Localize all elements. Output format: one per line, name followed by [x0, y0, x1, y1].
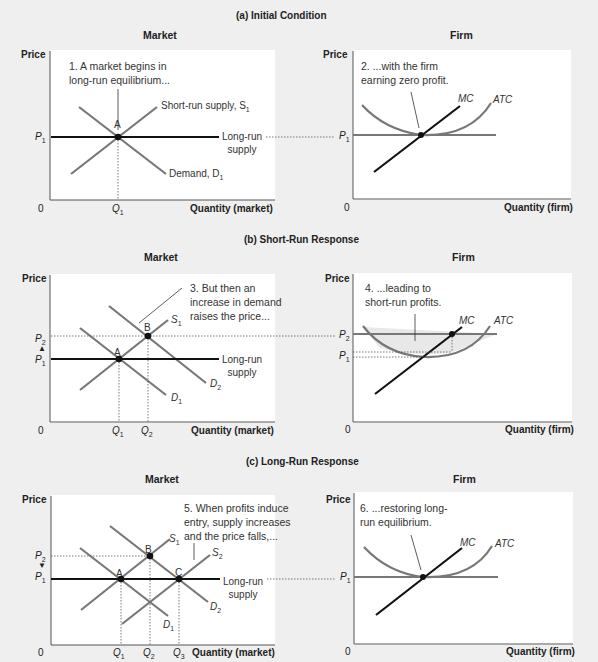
- panel-b-point-a: [116, 356, 123, 363]
- panel-c-firm-annotation-leader: [411, 535, 421, 570]
- panel-a-supply-curve: [71, 107, 157, 174]
- panel-c-atc-curve: [364, 546, 492, 577]
- panel-b-annotation-leader: [139, 288, 182, 323]
- panel-a-firm-axes: [353, 51, 571, 199]
- panel-a-firm-annotation-leader: [411, 92, 419, 128]
- panel-b-d1-curve: [80, 328, 166, 395]
- panel-b-d2-curve: [109, 306, 206, 383]
- panel-c-point-a: [118, 576, 125, 583]
- panel-c-point-b: [147, 553, 154, 560]
- panel-b-point-b: [145, 333, 152, 340]
- panel-b-firm-profit-point: [449, 331, 455, 337]
- panel-c-mc-curve: [376, 548, 462, 615]
- panel-b-s1-curve: [80, 320, 168, 390]
- panel-a-demand-curve: [79, 107, 166, 174]
- panel-a-market-axes: [50, 51, 275, 200]
- panel-c-s1-curve: [81, 539, 170, 610]
- curves-overlay: [0, 0, 598, 662]
- panel-a-point-a: [115, 134, 122, 141]
- panel-c-point-c: [176, 576, 183, 583]
- panel-c-d1-curve: [80, 548, 168, 616]
- panel-c-firm-equilibrium-point: [420, 574, 426, 580]
- panel-c-d2-curve: [110, 526, 208, 602]
- panel-c-firm-axes: [354, 493, 573, 644]
- panel-a-atc-curve: [362, 103, 491, 135]
- panel-a-mc-curve: [374, 106, 460, 172]
- panel-a-firm-equilibrium-point: [418, 132, 424, 138]
- panel-c-market-axes: [51, 496, 275, 645]
